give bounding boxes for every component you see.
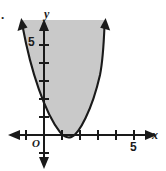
y-axis-label: y xyxy=(44,8,49,20)
graph-figure: . xyxy=(0,0,166,171)
x-axis-tick-label-5: 5 xyxy=(130,141,137,153)
y-axis-tick-label-5: 5 xyxy=(28,36,35,48)
origin-label: O xyxy=(32,138,40,149)
coordinate-plane-svg xyxy=(0,0,166,171)
x-axis-label: x xyxy=(152,129,158,141)
